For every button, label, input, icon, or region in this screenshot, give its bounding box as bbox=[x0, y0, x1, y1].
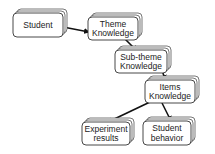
node-behavior: Studentbehavior bbox=[143, 117, 195, 145]
knowledge-diagram: StudentThemeKnowledgeSub-themeKnowledgeI… bbox=[0, 0, 215, 154]
edges bbox=[63, 27, 171, 122]
node-label: behavior bbox=[151, 133, 184, 143]
node-label: Items bbox=[160, 82, 181, 92]
node-label: Sub-theme bbox=[120, 52, 162, 62]
node-label: Experiment bbox=[85, 124, 129, 134]
node-label: Knowledge bbox=[92, 28, 134, 38]
node-label: Theme bbox=[100, 19, 127, 29]
node-label: Student bbox=[152, 123, 182, 133]
node-subtheme: Sub-themeKnowledge bbox=[115, 46, 171, 73]
node-student: Student bbox=[13, 9, 67, 37]
node-label: Knowledge bbox=[149, 91, 191, 101]
node-label: Student bbox=[23, 20, 53, 30]
node-theme: ThemeKnowledge bbox=[88, 13, 142, 40]
node-label: Knowledge bbox=[120, 61, 162, 71]
node-items: ItemsKnowledge bbox=[145, 76, 199, 103]
node-label: results bbox=[93, 133, 118, 143]
node-experiment: Experimentresults bbox=[82, 118, 134, 145]
nodes: StudentThemeKnowledgeSub-themeKnowledgeI… bbox=[13, 9, 199, 145]
